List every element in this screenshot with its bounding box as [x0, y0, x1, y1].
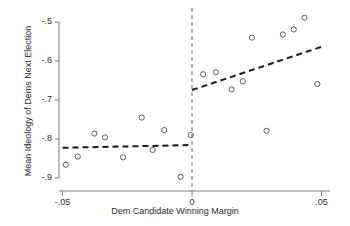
fit-line-right-fit — [192, 47, 322, 90]
data-point — [201, 72, 206, 77]
plot-canvas — [0, 0, 350, 226]
data-point — [92, 131, 97, 136]
data-point — [213, 70, 218, 75]
data-point — [291, 27, 296, 32]
rd-scatter-plot-figure: -.9-.8-.7-.6-.5 -.050.05 Mean Ideology o… — [0, 0, 350, 226]
data-point — [121, 155, 126, 160]
data-point — [229, 87, 234, 92]
fit-line-left-fit — [63, 145, 193, 148]
data-point — [240, 79, 245, 84]
x-axis-group — [59, 191, 330, 196]
data-point — [264, 128, 269, 133]
data-point — [280, 32, 285, 37]
data-point — [102, 135, 107, 140]
data-point — [75, 154, 80, 159]
data-point — [139, 115, 144, 120]
data-point — [188, 133, 193, 138]
y-axis-group — [55, 22, 59, 178]
data-point — [63, 162, 68, 167]
x-axis-ticks — [63, 191, 322, 196]
data-point — [302, 15, 307, 20]
data-point — [178, 174, 183, 179]
data-point — [162, 127, 167, 132]
x-axis-title: Dem Candidate Winning Margin — [0, 206, 350, 216]
data-point — [249, 35, 254, 40]
y-axis-ticks — [55, 22, 59, 178]
data-point — [315, 81, 320, 86]
y-axis-title: Mean Ideology of Dems Next Election — [23, 21, 33, 181]
data-point — [150, 147, 155, 152]
